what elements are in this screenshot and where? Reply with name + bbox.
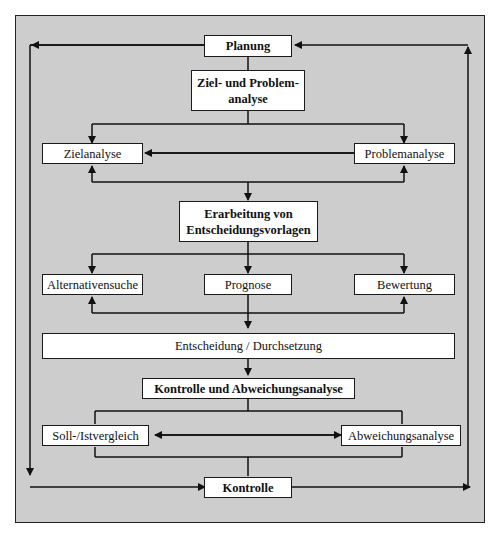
node-zielanalyse: Zielanalyse [42,143,143,164]
node-prognose: Prognose [204,274,292,295]
node-bewertung: Bewertung [354,274,455,295]
node-erarbeitung: Erarbeitung von Entscheidungsvorlagen [179,201,318,242]
node-label: Alternativensuche [47,277,138,293]
node-label: Entscheidung / Durchsetzung [175,338,322,354]
node-label: Abweichungsanalyse [348,428,454,444]
node-label: Ziel- und Problem- [197,75,299,91]
node-label: Problemanalyse [365,146,445,162]
node-label: Kontrolle und Abweichungsanalyse [154,381,343,397]
node-ziel-problemanalyse: Ziel- und Problem- analyse [191,70,305,111]
node-label: Bewertung [377,277,432,293]
node-planung: Planung [204,35,292,57]
node-label: Kontrolle [222,480,273,496]
node-problemanalyse: Problemanalyse [354,143,455,164]
node-soll-istvergleich: Soll-/Istvergleich [42,425,149,446]
node-label: Planung [226,38,270,54]
node-label: Zielanalyse [64,146,122,162]
node-label: analyse [228,91,268,107]
node-kontrolle: Kontrolle [204,477,292,498]
node-alternativensuche: Alternativensuche [42,274,143,295]
node-label: Soll-/Istvergleich [52,428,139,444]
node-entscheidung: Entscheidung / Durchsetzung [42,333,455,359]
node-abweichungsanalyse: Abweichungsanalyse [341,425,461,446]
node-kontrolle-abweichungsanalyse: Kontrolle und Abweichungsanalyse [142,378,355,399]
node-label: Erarbeitung von [204,206,293,222]
node-label: Prognose [225,277,272,293]
node-label: Entscheidungsvorlagen [186,222,310,238]
